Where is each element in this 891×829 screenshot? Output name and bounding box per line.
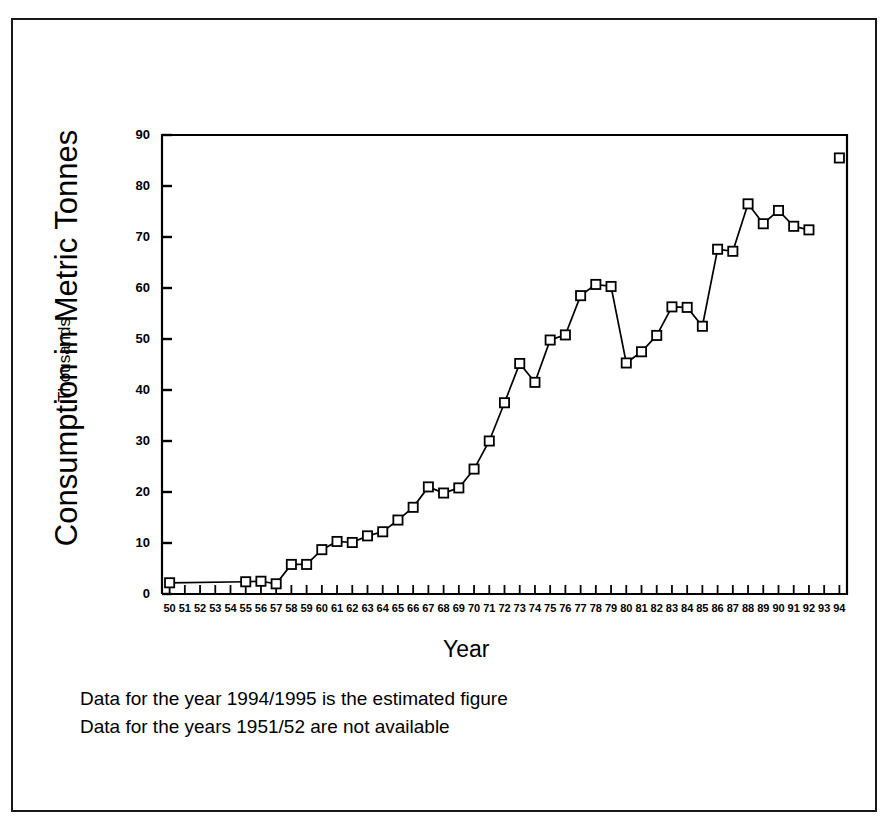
y-tick-label: 40 [116,382,150,397]
figure-page: Consumption in Metric Tonnes Thousands 0… [0,0,891,829]
footnote-unavailable: Data for the years 1951/52 are not avail… [80,716,450,738]
y-tick-label: 50 [116,331,150,346]
y-tick-label: 60 [116,280,150,295]
y-tick-label: 90 [116,127,150,142]
x-axis-title: Year [443,636,489,663]
footnote-estimated: Data for the year 1994/1995 is the estim… [80,688,508,710]
y-tick-label: 80 [116,178,150,193]
y-tick-label: 30 [116,433,150,448]
y-tick-label: 0 [116,586,150,601]
figure-frame: Consumption in Metric Tonnes Thousands 0… [11,18,877,812]
y-tick-label: 20 [116,484,150,499]
x-tick-label: 94 [828,602,850,614]
y-tick-label: 10 [116,535,150,550]
y-tick-label: 70 [116,229,150,244]
